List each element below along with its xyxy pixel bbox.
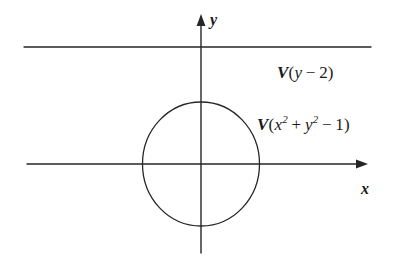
label-v-x2-plus-y2-minus-1-operator: V bbox=[257, 115, 269, 134]
label-circle-exponent-x: 2 bbox=[282, 113, 288, 125]
label-v-x2-plus-y2-minus-1-body: (x2 + y2 − 1) bbox=[269, 115, 350, 134]
label-v-y-minus-2-body: (y − 2) bbox=[289, 63, 334, 82]
label-v-y-minus-2-operator: V bbox=[277, 63, 289, 82]
label-v-y-minus-2-variable: y bbox=[294, 63, 302, 82]
label-v-y-minus-2: V(y − 2) bbox=[277, 63, 334, 83]
x-axis-label: x bbox=[361, 180, 369, 198]
x-axis-arrowhead bbox=[356, 160, 368, 169]
label-v-x2-plus-y2-minus-1: V(x2 + y2 − 1) bbox=[257, 115, 350, 135]
y-axis-label: y bbox=[210, 11, 217, 29]
label-circle-exponent-y: 2 bbox=[313, 113, 319, 125]
label-circle-variable-y: y bbox=[305, 115, 313, 134]
label-circle-variable-x: x bbox=[274, 115, 282, 134]
y-axis-arrowhead bbox=[197, 14, 206, 26]
